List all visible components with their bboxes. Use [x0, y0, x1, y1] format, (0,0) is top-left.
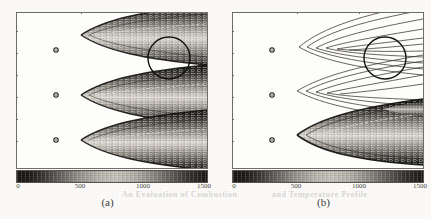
- colorbar-tick-label: 500: [75, 182, 86, 190]
- axis-tick: [232, 141, 234, 142]
- colorbar-tick-label: 1000: [352, 182, 366, 190]
- figure-container: in Combustion by Robert Boyer An Evaluat…: [0, 0, 431, 219]
- axis-tick: [143, 12, 144, 14]
- panel-b: 0 500 1000 1500 (b): [216, 0, 431, 219]
- source-marker-dot: [55, 94, 56, 95]
- colorbar-texture: [233, 171, 423, 182]
- source-marker-dot: [55, 139, 56, 140]
- colorbar-tick-label: 1500: [197, 182, 211, 190]
- axis-tick: [16, 97, 18, 98]
- colorbar-tick-label: 0: [16, 182, 20, 190]
- axis-tick: [232, 53, 234, 54]
- colorbar-tick-label: 1500: [413, 182, 427, 190]
- axis-tick: [232, 75, 234, 76]
- colorbar-texture: [17, 171, 207, 182]
- plot-area-b: [232, 12, 424, 169]
- colorbar-tick-label: 500: [291, 182, 302, 190]
- source-marker-dot: [271, 94, 272, 95]
- plot-area-a: [16, 12, 208, 169]
- panel-a: 0 500 1000 1500 (a): [0, 0, 215, 219]
- colorbar-tick-label: 0: [232, 182, 236, 190]
- axis-tick: [359, 12, 360, 14]
- axis-tick: [232, 31, 234, 32]
- axis-tick: [232, 119, 234, 120]
- axis-tick: [16, 53, 18, 54]
- colorbar-tick-label: 1000: [136, 182, 150, 190]
- axis-tick: [81, 12, 82, 14]
- axis-tick: [16, 141, 18, 142]
- source-marker-dot: [271, 139, 272, 140]
- axis-tick: [297, 12, 298, 14]
- panel-caption-a: (a): [0, 196, 215, 208]
- source-marker-dot: [55, 49, 56, 50]
- source-marker-dot: [271, 49, 272, 50]
- axis-tick: [16, 75, 18, 76]
- panel-caption-b: (b): [216, 196, 431, 208]
- plot-svg-a: [17, 13, 207, 168]
- axis-tick: [232, 97, 234, 98]
- colorbar-tick-labels-b: 0 500 1000 1500: [232, 182, 422, 193]
- plot-svg-b: [233, 13, 423, 168]
- axis-tick: [16, 119, 18, 120]
- colorbar-tick-labels-a: 0 500 1000 1500: [16, 182, 206, 193]
- axis-tick: [16, 31, 18, 32]
